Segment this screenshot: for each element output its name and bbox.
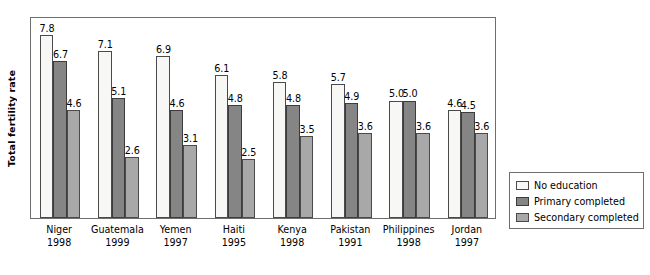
bar-group: 6.14.82.5 xyxy=(206,18,264,218)
legend-swatch-no-education xyxy=(516,181,529,190)
bar-no-education xyxy=(40,35,54,218)
x-axis-label-year: 1997 xyxy=(438,237,496,250)
bar-group: 4.64.53.6 xyxy=(439,18,497,218)
x-axis-label-year: 1998 xyxy=(30,237,88,250)
bar-value-label: 3.6 xyxy=(358,122,373,132)
bar-secondary-completed xyxy=(416,133,430,218)
bar-value-label: 6.1 xyxy=(214,64,229,74)
bar-value-label: 2.6 xyxy=(125,146,140,156)
x-axis-label: Pakistan1991 xyxy=(321,224,379,249)
bar-no-education xyxy=(215,75,229,218)
x-axis-label-country: Pakistan xyxy=(321,224,379,237)
bar-value-label: 3.6 xyxy=(474,122,489,132)
x-axis-label-country: Jordan xyxy=(438,224,496,237)
bar-value-label: 5.0 xyxy=(402,89,417,99)
bar-no-education xyxy=(156,56,170,218)
x-axis-label-year: 1995 xyxy=(205,237,263,250)
plot-inner: 7.86.74.67.15.12.66.94.63.16.14.82.55.84… xyxy=(31,18,495,218)
bar-no-education xyxy=(273,82,287,218)
bar-value-label: 6.9 xyxy=(156,45,171,55)
bar-value-label: 4.6 xyxy=(66,99,81,109)
chart-legend: No education Primary completed Secondary… xyxy=(509,172,644,229)
x-axis-label: Haiti1995 xyxy=(205,224,263,249)
bar-value-label: 4.8 xyxy=(228,94,243,104)
plot-area: 7.86.74.67.15.12.66.94.63.16.14.82.55.84… xyxy=(30,17,496,219)
x-axis-label-year: 1998 xyxy=(380,237,438,250)
bar-group: 5.05.03.6 xyxy=(381,18,439,218)
x-axis-label-year: 1991 xyxy=(321,237,379,250)
bar-value-label: 5.1 xyxy=(111,87,126,97)
legend-label-no-education: No education xyxy=(534,180,598,191)
bar-value-label: 5.8 xyxy=(272,71,287,81)
x-axis-label: Jordan1997 xyxy=(438,224,496,249)
bar-group: 7.15.12.6 xyxy=(89,18,147,218)
bar-value-label: 4.5 xyxy=(461,101,476,111)
x-axis-label: Philippines1998 xyxy=(380,224,438,249)
bar-value-label: 6.7 xyxy=(53,50,68,60)
x-axis-label-year: 1998 xyxy=(263,237,321,250)
x-axis-label-country: Philippines xyxy=(380,224,438,237)
legend-swatch-secondary-completed xyxy=(516,213,529,222)
bar-value-label: 7.8 xyxy=(39,24,54,34)
y-axis-title: Total fertility rate xyxy=(2,17,20,219)
x-axis-label: Yemen1997 xyxy=(147,224,205,249)
bar-value-label: 3.1 xyxy=(183,134,198,144)
bar-no-education xyxy=(389,101,403,218)
bar-group: 7.86.74.6 xyxy=(31,18,89,218)
bar-primary-completed xyxy=(112,98,126,218)
bar-no-education xyxy=(448,110,462,218)
bar-no-education xyxy=(98,51,112,218)
bar-value-label: 3.5 xyxy=(299,125,314,135)
bar-secondary-completed xyxy=(125,157,139,218)
y-axis-title-text: Total fertility rate xyxy=(6,70,17,167)
fertility-rate-bar-chart: Total fertility rate 7.86.74.67.15.12.66… xyxy=(0,0,650,275)
legend-label-secondary-completed: Secondary completed xyxy=(534,212,639,223)
bar-primary-completed xyxy=(228,105,242,218)
x-axis-label-year: 1997 xyxy=(147,237,205,250)
bar-group: 6.94.63.1 xyxy=(148,18,206,218)
bar-primary-completed xyxy=(170,110,184,218)
bar-secondary-completed xyxy=(67,110,81,218)
legend-item-primary-completed: Primary completed xyxy=(516,193,638,209)
x-axis-label: Guatemala1999 xyxy=(88,224,146,249)
x-axis-label-year: 1999 xyxy=(88,237,146,250)
legend-item-no-education: No education xyxy=(516,177,638,193)
bar-group: 5.74.93.6 xyxy=(322,18,380,218)
x-axis-label-country: Guatemala xyxy=(88,224,146,237)
bar-secondary-completed xyxy=(183,145,197,218)
x-axis-label: Kenya1998 xyxy=(263,224,321,249)
bar-group: 5.84.83.5 xyxy=(264,18,322,218)
x-axis-label-country: Haiti xyxy=(205,224,263,237)
bar-secondary-completed xyxy=(475,133,489,218)
x-axis-label: Niger1998 xyxy=(30,224,88,249)
legend-label-primary-completed: Primary completed xyxy=(534,196,625,207)
bar-secondary-completed xyxy=(300,136,314,218)
x-axis-label-country: Yemen xyxy=(147,224,205,237)
bar-value-label: 5.7 xyxy=(331,73,346,83)
x-axis-category-labels: Niger1998Guatemala1999Yemen1997Haiti1995… xyxy=(30,224,496,260)
bar-value-label: 7.1 xyxy=(98,40,113,50)
bar-primary-completed xyxy=(345,103,359,218)
legend-swatch-primary-completed xyxy=(516,197,529,206)
bar-secondary-completed xyxy=(358,133,372,218)
bar-primary-completed xyxy=(461,112,475,218)
x-axis-label-country: Niger xyxy=(30,224,88,237)
bar-no-education xyxy=(331,84,345,218)
bar-value-label: 4.6 xyxy=(169,99,184,109)
bar-primary-completed xyxy=(403,101,417,218)
bar-value-label: 3.6 xyxy=(416,122,431,132)
legend-item-secondary-completed: Secondary completed xyxy=(516,209,638,225)
bar-value-label: 4.9 xyxy=(344,92,359,102)
bar-primary-completed xyxy=(286,105,300,218)
bar-secondary-completed xyxy=(242,159,256,218)
bar-value-label: 2.5 xyxy=(241,148,256,158)
x-axis-label-country: Kenya xyxy=(263,224,321,237)
bar-primary-completed xyxy=(53,61,67,218)
bar-value-label: 4.8 xyxy=(286,94,301,104)
